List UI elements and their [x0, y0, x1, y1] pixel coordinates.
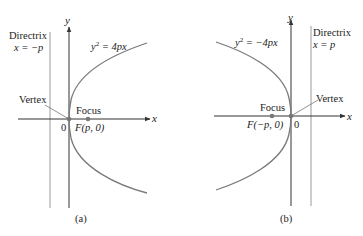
origin-label: 0 — [61, 122, 66, 133]
vertex-point — [289, 114, 294, 119]
y-axis-label: y — [287, 11, 293, 23]
parabola-curve — [69, 43, 147, 193]
focus-label: Focus — [76, 105, 101, 116]
directrix-title: Directrix — [9, 30, 48, 41]
x-axis-label: x — [151, 112, 157, 124]
y-axis-label: y — [64, 14, 70, 26]
directrix-title: Directrix — [313, 27, 352, 38]
focus-coordinate: F(p, 0) — [74, 122, 105, 134]
vertex-leader — [45, 105, 69, 119]
focus-point — [270, 114, 275, 119]
caption-a: (a) — [75, 213, 87, 225]
focus-label: Focus — [260, 102, 285, 113]
origin-label: 0 — [294, 119, 299, 130]
panel-b: y x Directrix x = p y2 = −4px Vertex Foc… — [214, 11, 352, 225]
parabola-diagram: y x Directrix x = −p y2 = 4px Vertex Foc… — [0, 0, 363, 236]
vertex-label: Vertex — [19, 94, 47, 105]
panel-a: y x Directrix x = −p y2 = 4px Vertex Foc… — [9, 14, 157, 225]
x-axis-label: x — [346, 110, 352, 122]
directrix-equation: x = p — [312, 39, 335, 50]
vertex-leader — [291, 100, 318, 116]
vertex-point — [67, 117, 72, 122]
equation-label: y2 = −4px — [234, 36, 278, 48]
equation-label: y2 = 4px — [90, 40, 127, 52]
focus-point — [86, 117, 91, 122]
vertex-label: Vertex — [316, 93, 344, 104]
directrix-equation: x = −p — [13, 42, 43, 53]
caption-b: (b) — [280, 213, 293, 225]
focus-coordinate: F(−p, 0) — [246, 119, 284, 131]
